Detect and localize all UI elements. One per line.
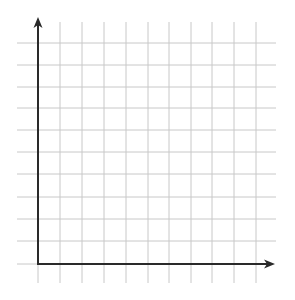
coordinate-grid-diagram [0, 0, 295, 300]
grid-lines [17, 22, 276, 283]
axes [34, 17, 276, 269]
grid-canvas [0, 0, 295, 300]
